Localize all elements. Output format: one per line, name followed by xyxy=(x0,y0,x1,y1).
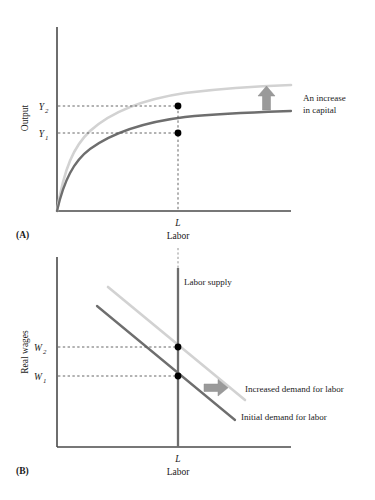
panel-b-label: (B) xyxy=(16,466,29,477)
panel-a-x-tick-l: L xyxy=(174,218,180,228)
panel-a-point-y1 xyxy=(175,130,182,137)
panel-b-x-tick-l: L xyxy=(174,454,180,464)
panel-b-y-tick-w2: W 2 xyxy=(34,343,47,355)
up-arrow-icon xyxy=(258,86,275,110)
panel-b-point-w1 xyxy=(175,373,182,380)
economics-figure: Output Y 2 Y 1 L Labor An increase in ca… xyxy=(0,0,375,500)
panel-a-annotation-line1: An increase xyxy=(303,93,346,103)
svg-text:2: 2 xyxy=(45,107,49,114)
panel-b-labor-supply-label: Labor supply xyxy=(184,277,232,287)
panel-b-increased-demand-curve xyxy=(108,287,245,400)
panel-b-point-w2 xyxy=(175,344,182,351)
panel-b-initial-demand-curve xyxy=(97,306,235,420)
svg-text:1: 1 xyxy=(45,134,48,141)
svg-text:W: W xyxy=(34,372,43,382)
panel-b-initial-demand-label: Initial demand for labor xyxy=(241,412,327,422)
panel-a: Output Y 2 Y 1 L Labor An increase in ca… xyxy=(16,27,346,241)
panel-a-y-tick-y2: Y 2 xyxy=(39,102,49,114)
panel-b-y-tick-w1: W 1 xyxy=(34,372,46,384)
panel-a-y-tick-y1: Y 1 xyxy=(39,129,49,141)
svg-text:2: 2 xyxy=(43,348,47,355)
svg-text:W: W xyxy=(34,343,43,353)
panel-a-x-axis-label: Labor xyxy=(167,231,191,241)
panel-a-label: (A) xyxy=(16,230,29,241)
panel-a-point-y2 xyxy=(175,103,182,110)
panel-b-increased-demand-label: Increased demand for labor xyxy=(245,384,344,394)
panel-a-initial-curve xyxy=(57,111,291,211)
panel-a-annotation-line2: in capital xyxy=(303,105,337,115)
panel-b-x-axis-label: Labor xyxy=(167,467,191,477)
panel-a-y-axis-label: Output xyxy=(20,104,30,131)
panel-b: Real wages W 2 W 1 L Labor Labor supply … xyxy=(16,248,344,477)
svg-text:1: 1 xyxy=(43,377,46,384)
panel-b-y-axis-label: Real wages xyxy=(20,330,30,374)
